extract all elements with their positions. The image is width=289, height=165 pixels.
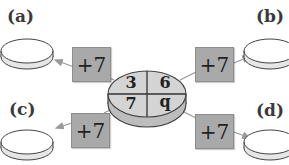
disc-value-top-right: 6 <box>155 75 175 91</box>
output-disc-a <box>1 39 53 69</box>
output-disc-c <box>1 130 53 160</box>
operator-box-d: +7 <box>195 114 234 149</box>
disc-value-top-left: 3 <box>121 75 141 91</box>
operator-box-b: +7 <box>195 47 234 82</box>
output-label-a: (a) <box>7 8 34 25</box>
output-label-c: (c) <box>9 101 35 118</box>
output-disc-d <box>244 130 289 160</box>
operator-box-c: +7 <box>71 113 110 148</box>
disc-value-bottom-left: 7 <box>121 96 141 112</box>
operator-box-a: +7 <box>72 47 111 82</box>
output-label-b: (b) <box>256 8 284 25</box>
disc-value-bottom-right: q <box>155 94 175 110</box>
output-label-d: (d) <box>256 102 284 119</box>
diagram-canvas <box>0 0 289 165</box>
output-disc-b <box>244 39 289 69</box>
